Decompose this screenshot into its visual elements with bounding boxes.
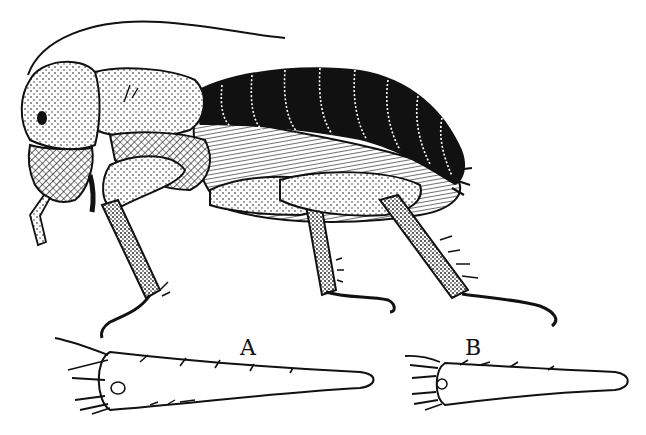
eye (37, 111, 47, 125)
detail-a (55, 338, 374, 414)
head (22, 62, 100, 149)
pronotum (90, 68, 204, 137)
front-leg-tarsus (101, 295, 150, 338)
front-leg-tibia (102, 200, 160, 298)
label-b: B (465, 335, 481, 360)
label-a: A (239, 335, 257, 360)
detail-b (405, 356, 628, 410)
palp-left (30, 195, 50, 245)
palp-right (90, 175, 93, 212)
hind-leg-tarsus (462, 294, 556, 326)
insect-illustration: A B (0, 0, 646, 435)
mouthparts (29, 145, 93, 202)
middle-leg-tarsus (326, 292, 394, 312)
